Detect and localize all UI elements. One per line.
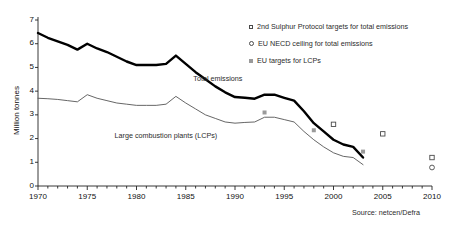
x-tick-label: 1995 bbox=[270, 192, 298, 201]
marker-open-square bbox=[381, 132, 385, 136]
source-note: Source: netcen/Defra bbox=[352, 208, 420, 217]
y-tick-label: 6 bbox=[24, 38, 34, 47]
legend-open-square-icon bbox=[249, 25, 253, 29]
marker-filled-square bbox=[312, 128, 316, 132]
legend-item: 2nd Sulphur Protocol targets for total e… bbox=[249, 22, 408, 31]
legend-item-label: EU targets for LCPs bbox=[257, 56, 321, 65]
x-tick-label: 1980 bbox=[123, 192, 151, 201]
marker-filled-square bbox=[263, 110, 267, 114]
y-tick-label: 2 bbox=[24, 133, 34, 142]
y-tick-label: 0 bbox=[24, 181, 34, 190]
x-tick-label: 1970 bbox=[24, 192, 52, 201]
x-tick-label: 2010 bbox=[418, 192, 446, 201]
y-tick-label: 7 bbox=[24, 15, 34, 24]
series-annotation: Large combustion plants (LCPs) bbox=[115, 131, 218, 140]
legend-item: EU targets for LCPs bbox=[249, 56, 321, 65]
x-tick-label: 1975 bbox=[73, 192, 101, 201]
chart-container: Million tonnes 01234567 1970197519801985… bbox=[0, 0, 452, 230]
marker-filled-square bbox=[361, 150, 365, 154]
x-tick-label: 2000 bbox=[320, 192, 348, 201]
legend-item-label: EU NECD ceiling for total emissions bbox=[258, 39, 373, 48]
legend-open-circle-icon bbox=[249, 41, 254, 46]
marker-open-circle bbox=[430, 165, 435, 170]
x-tick-label: 1990 bbox=[221, 192, 249, 201]
y-axis-title: Million tonnes bbox=[12, 86, 21, 135]
legend-item-label: 2nd Sulphur Protocol targets for total e… bbox=[257, 22, 408, 31]
legend-filled-square-icon bbox=[249, 59, 253, 63]
y-tick-label: 4 bbox=[24, 86, 34, 95]
y-tick-label: 5 bbox=[24, 62, 34, 71]
y-tick-label: 1 bbox=[24, 157, 34, 166]
x-tick-label: 1985 bbox=[172, 192, 200, 201]
legend-item: EU NECD ceiling for total emissions bbox=[249, 39, 373, 48]
y-tick-label: 3 bbox=[24, 109, 34, 118]
marker-open-square bbox=[331, 122, 335, 126]
marker-open-square bbox=[430, 155, 434, 159]
series-annotation: Total emissions bbox=[193, 74, 242, 83]
x-tick-label: 2005 bbox=[369, 192, 397, 201]
